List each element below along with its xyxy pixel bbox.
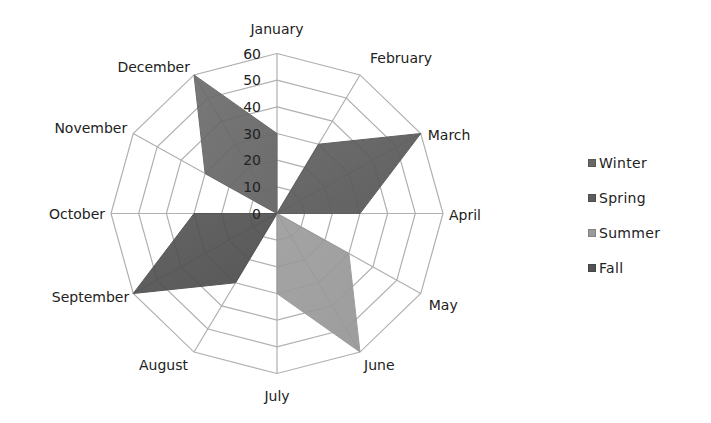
category-label-december: December [117,59,190,75]
legend-swatch-icon [588,264,596,272]
category-label-september: September [52,289,130,305]
category-label-august: August [139,357,189,373]
legend-label: Spring [599,190,646,206]
category-label-january: January [249,21,303,37]
series-fall-area [133,214,277,294]
category-label-october: October [49,206,105,222]
category-label-may: May [429,297,458,313]
legend-label: Winter [599,155,647,171]
category-label-april: April [449,207,481,223]
legend-swatch-icon [588,159,596,167]
category-labels: JanuaryFebruaryMarchAprilMayJuneJulyAugu… [49,21,481,404]
tick-label: 60 [243,46,261,62]
category-label-february: February [370,50,432,66]
tick-label: 10 [243,179,261,195]
legend-swatch-icon [588,229,596,237]
series-spring-area [277,134,421,214]
tick-label: 0 [252,206,261,222]
category-label-june: June [363,357,395,373]
legend-item-winter: Winter [588,154,698,172]
series-summer-area [277,214,360,353]
legend-item-spring: Spring [588,189,698,207]
tick-label: 40 [243,99,261,115]
legend: Winter Spring Summer Fall [588,154,698,294]
legend-item-fall: Fall [588,259,698,277]
category-label-july: July [263,388,289,404]
category-label-march: March [428,127,471,143]
legend-label: Fall [599,260,623,276]
legend-item-summer: Summer [588,224,698,242]
tick-label: 20 [243,152,261,168]
tick-label: 50 [243,72,261,88]
legend-label: Summer [599,225,660,241]
tick-label: 30 [243,126,261,142]
series-winter-area [194,75,277,214]
legend-swatch-icon [588,194,596,202]
category-label-november: November [54,120,127,136]
